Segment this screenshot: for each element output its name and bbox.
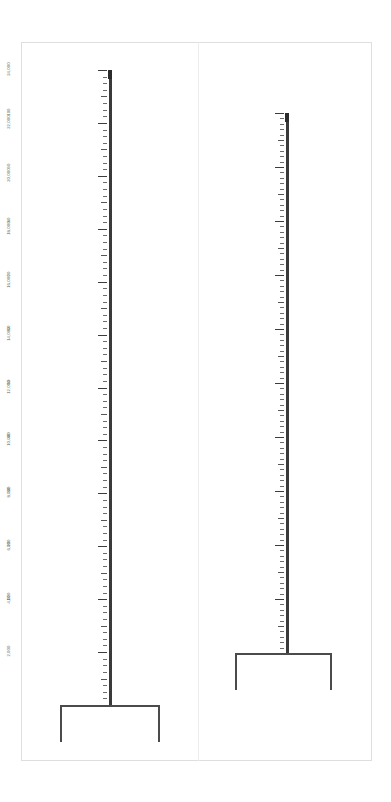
minor-tick bbox=[280, 351, 284, 352]
minor-tick bbox=[280, 183, 284, 184]
minor-tick bbox=[280, 232, 284, 233]
minor-tick bbox=[280, 226, 284, 227]
major-tick bbox=[275, 437, 284, 438]
axis-tick-label: 60 bbox=[7, 326, 11, 331]
minor-tick bbox=[280, 372, 284, 373]
minor-tick bbox=[280, 610, 284, 611]
minor-tick bbox=[280, 594, 284, 595]
major-tick bbox=[275, 167, 284, 168]
minor-tick bbox=[280, 388, 284, 389]
minor-tick bbox=[280, 486, 284, 487]
mid-tick bbox=[278, 464, 284, 465]
minor-tick bbox=[280, 648, 284, 649]
minor-tick bbox=[280, 118, 284, 119]
major-tick bbox=[275, 329, 284, 330]
minor-tick bbox=[280, 540, 284, 541]
mid-tick bbox=[278, 356, 284, 357]
minor-tick bbox=[280, 162, 284, 163]
minor-tick bbox=[280, 475, 284, 476]
minor-tick bbox=[280, 631, 284, 632]
axis-tick-label: 10 bbox=[7, 596, 11, 601]
major-tick bbox=[275, 383, 284, 384]
axis-tick-label: 100 bbox=[7, 108, 11, 115]
minor-tick bbox=[280, 291, 284, 292]
minor-tick bbox=[280, 577, 284, 578]
minor-tick bbox=[280, 297, 284, 298]
minor-tick bbox=[280, 129, 284, 130]
minor-tick bbox=[280, 270, 284, 271]
minor-tick bbox=[280, 361, 284, 362]
right-scale-bar-cap bbox=[285, 113, 289, 122]
axis-tick-label: 20 bbox=[7, 542, 11, 547]
minor-tick bbox=[280, 178, 284, 179]
minor-tick bbox=[280, 459, 284, 460]
minor-tick bbox=[280, 318, 284, 319]
minor-tick bbox=[280, 280, 284, 281]
minor-tick bbox=[280, 210, 284, 211]
minor-tick bbox=[280, 529, 284, 530]
minor-tick bbox=[280, 480, 284, 481]
minor-tick bbox=[280, 556, 284, 557]
minor-tick bbox=[280, 135, 284, 136]
minor-tick bbox=[280, 507, 284, 508]
document-page: 2,0004,0006,0008,00010,00012,00014,00016… bbox=[0, 0, 391, 802]
minor-tick bbox=[280, 172, 284, 173]
mid-tick bbox=[278, 248, 284, 249]
minor-tick bbox=[280, 205, 284, 206]
minor-tick bbox=[280, 453, 284, 454]
minor-tick bbox=[280, 642, 284, 643]
minor-tick bbox=[280, 588, 284, 589]
minor-tick bbox=[280, 340, 284, 341]
minor-tick bbox=[280, 216, 284, 217]
minor-tick bbox=[280, 378, 284, 379]
minor-tick bbox=[280, 124, 284, 125]
minor-tick bbox=[280, 394, 284, 395]
bracket-top-line bbox=[235, 653, 332, 655]
minor-tick bbox=[280, 513, 284, 514]
minor-tick bbox=[280, 421, 284, 422]
minor-tick bbox=[280, 583, 284, 584]
minor-tick bbox=[280, 307, 284, 308]
mid-tick bbox=[278, 410, 284, 411]
axis-tick-label: 90 bbox=[7, 164, 11, 169]
right-scale-bar bbox=[286, 113, 289, 653]
minor-tick bbox=[280, 313, 284, 314]
major-tick bbox=[275, 545, 284, 546]
minor-tick bbox=[280, 145, 284, 146]
major-tick bbox=[275, 599, 284, 600]
minor-tick bbox=[280, 259, 284, 260]
axis-tick-label: 70 bbox=[7, 272, 11, 277]
bracket-left-leg bbox=[235, 653, 237, 690]
minor-tick bbox=[280, 561, 284, 562]
minor-tick bbox=[280, 502, 284, 503]
minor-tick bbox=[280, 345, 284, 346]
minor-tick bbox=[280, 550, 284, 551]
minor-tick bbox=[280, 367, 284, 368]
mid-tick bbox=[278, 572, 284, 573]
major-tick bbox=[275, 221, 284, 222]
minor-tick bbox=[280, 432, 284, 433]
mid-tick bbox=[278, 626, 284, 627]
minor-tick bbox=[280, 156, 284, 157]
minor-tick bbox=[280, 399, 284, 400]
minor-tick bbox=[280, 253, 284, 254]
minor-tick bbox=[280, 567, 284, 568]
axis-tick-label: 40 bbox=[7, 434, 11, 439]
minor-tick bbox=[280, 523, 284, 524]
axis-tick-label: 80 bbox=[7, 218, 11, 223]
minor-tick bbox=[280, 496, 284, 497]
minor-tick bbox=[280, 637, 284, 638]
minor-tick bbox=[280, 264, 284, 265]
minor-tick bbox=[280, 189, 284, 190]
minor-tick bbox=[280, 448, 284, 449]
minor-tick bbox=[280, 534, 284, 535]
mid-tick bbox=[278, 194, 284, 195]
right-axis-bracket bbox=[235, 653, 332, 690]
minor-tick bbox=[280, 426, 284, 427]
axis-tick-label: 50 bbox=[7, 380, 11, 385]
mid-tick bbox=[278, 302, 284, 303]
major-tick bbox=[275, 491, 284, 492]
minor-tick bbox=[280, 286, 284, 287]
minor-tick bbox=[280, 324, 284, 325]
minor-tick bbox=[280, 442, 284, 443]
